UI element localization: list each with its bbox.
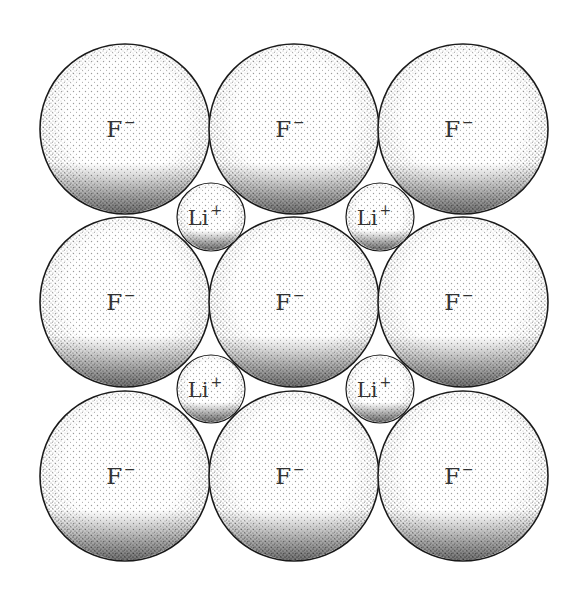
lif-lattice-diagram: F−F−F−F−F−F−F−F−F− Li+Li+Li+Li+ [0, 0, 582, 594]
fluoride-ion-sphere: F− [209, 44, 379, 214]
lithium-ion-sphere: Li+ [177, 355, 245, 423]
fluoride-ion-sphere: F− [40, 391, 210, 561]
lithium-ion-sphere: Li+ [177, 183, 245, 251]
fluoride-ion-sphere: F− [378, 44, 548, 214]
fluoride-ion-sphere: F− [378, 217, 548, 387]
fluoride-ion-sphere: F− [378, 391, 548, 561]
lithium-ion-sphere: Li+ [346, 355, 414, 423]
lithium-ion-sphere: Li+ [346, 183, 414, 251]
fluoride-ions-layer: F−F−F−F−F−F−F−F−F− [40, 44, 548, 561]
fluoride-ion-sphere: F− [209, 217, 379, 387]
fluoride-ion-sphere: F− [40, 44, 210, 214]
fluoride-ion-sphere: F− [40, 217, 210, 387]
fluoride-ion-sphere: F− [209, 391, 379, 561]
